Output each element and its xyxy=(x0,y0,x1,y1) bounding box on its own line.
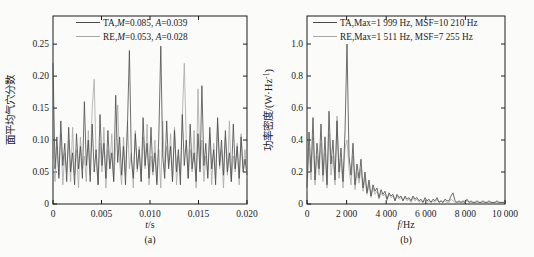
x-tick-label: 8 000 xyxy=(455,209,477,219)
x-tick-label: 0.020 xyxy=(236,209,258,219)
y-axis-label: 面平均气穴分数 xyxy=(4,74,16,145)
x-tick-label: 0 xyxy=(51,209,56,219)
y-tick-label: 0.6 xyxy=(291,103,303,113)
dual-chart-figure: 00.0050.0100.0150.02000.050.100.150.200.… xyxy=(0,0,534,257)
legend-label-RE: RE,M=0.053, A=0.028 xyxy=(103,32,188,42)
y-tick-label: 0.2 xyxy=(291,167,303,177)
x-tick-label: 0.015 xyxy=(188,209,210,219)
y-tick-label: 0 xyxy=(44,199,49,209)
chart-b: 02 0004 0006 0008 00010 00000.20.40.60.8… xyxy=(262,16,519,246)
y-tick-label: 1.0 xyxy=(291,39,303,49)
y-axis-label: 功率密度/(W·Hz-1) xyxy=(262,69,276,151)
x-axis-label: t/s xyxy=(145,219,155,230)
legend-label-TA: TA,Max=1 999 Hz, MSF=10 210 Hz xyxy=(340,18,478,28)
y-tick-label: 0.20 xyxy=(32,71,49,81)
panel-caption: (a) xyxy=(144,234,155,246)
x-axis-label: f/Hz xyxy=(397,219,415,230)
y-tick-label: 0.8 xyxy=(291,71,303,81)
x-tick-label: 6 000 xyxy=(415,209,437,219)
plot-frame xyxy=(307,16,505,204)
x-tick-label: 2 000 xyxy=(336,209,358,219)
x-tick-label: 10 000 xyxy=(492,209,518,219)
legend-label-TA: TA,M=0.085, A=0.039 xyxy=(103,18,188,28)
y-tick-label: 0 xyxy=(298,199,303,209)
panel-caption: (b) xyxy=(400,234,412,246)
y-tick-label: 0.25 xyxy=(32,39,49,49)
y-tick-label: 0.4 xyxy=(291,135,303,145)
legend-label-RE: RE,Max=1 511 Hz, MSF=7 255 Hz xyxy=(340,32,473,42)
x-tick-label: 4 000 xyxy=(376,209,398,219)
series-line-TA xyxy=(307,44,505,202)
y-tick-label: 0.15 xyxy=(32,103,49,113)
chart-a: 00.0050.0100.0150.02000.050.100.150.200.… xyxy=(4,16,258,246)
x-tick-label: 0 xyxy=(305,209,310,219)
y-tick-label: 0.10 xyxy=(32,135,49,145)
x-tick-label: 0.010 xyxy=(139,209,161,219)
y-tick-label: 0.05 xyxy=(32,167,49,177)
x-tick-label: 0.005 xyxy=(91,209,113,219)
figure-canvas: 00.0050.0100.0150.02000.050.100.150.200.… xyxy=(0,0,534,257)
